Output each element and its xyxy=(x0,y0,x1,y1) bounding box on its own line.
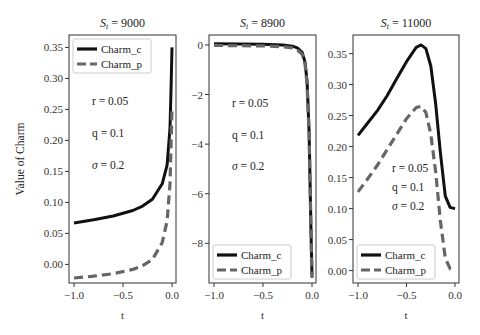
y-tick-label: −2 xyxy=(191,89,203,101)
subplot-title: St = 8900 xyxy=(240,16,285,31)
x-tick-label: −0.5 xyxy=(113,289,133,301)
subplot-st-8900: St = 89000−2−4−6−8−1.0−0.50.0tr = 0.05q … xyxy=(191,16,319,321)
legend-label: Charm_c xyxy=(241,249,281,261)
parameter-annotation: q = 0.1 xyxy=(92,127,125,140)
y-tick-label: 0.00 xyxy=(44,258,64,270)
y-tick-label: 0.20 xyxy=(44,134,64,146)
subplot-title: St = 9000 xyxy=(100,16,145,31)
x-tick-label: −1.0 xyxy=(64,289,84,301)
legend-label: Charm_c xyxy=(385,249,425,261)
charm-figure: Value of Charm St = 90000.350.300.250.20… xyxy=(0,0,480,335)
y-axis-label: Value of Charm xyxy=(14,123,26,196)
y-tick-label: −8 xyxy=(191,237,203,249)
x-tick-label: 0.0 xyxy=(448,289,462,301)
parameter-annotation: q = 0.1 xyxy=(232,129,265,142)
y-tick-label: 0.25 xyxy=(44,103,64,115)
parameter-annotation: σ = 0.2 xyxy=(232,160,265,172)
y-tick-label: 0.00 xyxy=(328,265,348,277)
legend: Charm_cCharm_p xyxy=(357,245,435,279)
y-tick-label: 0.35 xyxy=(328,48,348,60)
y-tick-label: 0.10 xyxy=(328,203,348,215)
y-tick-label: 0.15 xyxy=(44,165,64,177)
legend: Charm_cCharm_p xyxy=(213,245,291,279)
y-tick-label: 0.25 xyxy=(328,110,348,122)
parameter-annotation: r = 0.05 xyxy=(92,95,128,107)
y-tick-label: 0.20 xyxy=(328,141,348,153)
x-tick-label: −0.5 xyxy=(253,289,273,301)
legend-label: Charm_p xyxy=(385,264,426,276)
y-tick-label: 0.10 xyxy=(44,196,64,208)
x-axis-label: t xyxy=(121,309,124,321)
y-tick-label: −6 xyxy=(191,188,203,200)
parameter-annotation: σ = 0.2 xyxy=(92,159,125,171)
y-tick-label: 0.05 xyxy=(328,234,348,246)
y-tick-label: 0.15 xyxy=(328,172,348,184)
figure-caption-cropped xyxy=(0,322,480,335)
y-tick-label: 0 xyxy=(198,39,204,51)
subplot-title: St = 11000 xyxy=(381,16,432,31)
y-tick-label: 0.35 xyxy=(44,41,64,53)
parameter-annotation: r = 0.05 xyxy=(232,97,268,109)
x-axis-label: t xyxy=(261,309,264,321)
legend-label: Charm_p xyxy=(241,264,282,276)
x-axis-label: t xyxy=(404,309,407,321)
legend-label: Charm_p xyxy=(101,58,142,70)
subplot-st-9000: St = 90000.350.300.250.200.150.100.050.0… xyxy=(44,16,180,321)
y-tick-label: 0.30 xyxy=(328,79,348,91)
x-tick-label: −0.5 xyxy=(397,289,417,301)
x-tick-label: 0.0 xyxy=(305,289,319,301)
y-tick-label: −4 xyxy=(191,138,203,150)
y-tick-label: 0.30 xyxy=(44,72,64,84)
parameter-annotation: σ = 0.2 xyxy=(392,200,425,212)
subplot-st-11000: St = 110000.350.300.250.200.150.100.050.… xyxy=(328,16,463,321)
legend: Charm_cCharm_p xyxy=(73,39,151,73)
parameter-annotation: r = 0.05 xyxy=(392,162,428,174)
y-tick-label: 0.05 xyxy=(44,227,64,239)
x-tick-label: −1.0 xyxy=(204,289,224,301)
parameter-annotation: q = 0.1 xyxy=(392,181,425,194)
x-tick-label: −1.0 xyxy=(348,289,368,301)
legend-label: Charm_c xyxy=(101,43,141,55)
x-tick-label: 0.0 xyxy=(165,289,179,301)
